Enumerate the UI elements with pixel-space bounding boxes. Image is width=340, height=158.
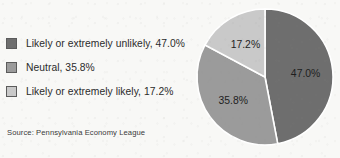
- legend-item-likely-or-extremely-unlikely[interactable]: Likely or extremely unlikely, 47.0%: [6, 31, 206, 55]
- pie-plot-area: 47.0%35.8%17.2%: [193, 5, 337, 153]
- legend-item-likely-or-extremely-likely[interactable]: Likely or extremely likely, 17.2%: [6, 79, 206, 103]
- pie-slice-value-label: 35.8%: [218, 95, 247, 106]
- pie-chart-figure: Likely or extremely unlikely, 47.0% Neut…: [0, 0, 340, 158]
- pie-slice-value-label: 17.2%: [231, 39, 260, 50]
- legend-label-likely-or-extremely-unlikely: Likely or extremely unlikely, 47.0%: [26, 38, 185, 49]
- legend-swatch-neutral: [6, 62, 17, 73]
- legend-label-likely-or-extremely-likely: Likely or extremely likely, 17.2%: [26, 86, 173, 97]
- pie-slice-value-label: 47.0%: [291, 68, 320, 79]
- source-note: Source: Pennsylvania Economy League: [7, 128, 145, 137]
- legend-item-neutral[interactable]: Neutral, 35.8%: [6, 55, 206, 79]
- chart-legend: Likely or extremely unlikely, 47.0% Neut…: [6, 31, 206, 103]
- legend-swatch-likely-or-extremely-likely: [6, 86, 17, 97]
- legend-swatch-likely-or-extremely-unlikely: [6, 38, 17, 49]
- legend-label-neutral: Neutral, 35.8%: [26, 62, 95, 73]
- pie-svg: 47.0%35.8%17.2%: [193, 5, 337, 153]
